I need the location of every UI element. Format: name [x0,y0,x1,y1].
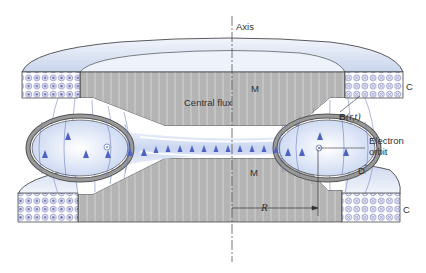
bottom-left-coil [18,193,78,222]
donut-label: D [358,166,365,176]
top-left-coil [22,72,80,98]
field-label: B(r,t) [339,112,361,122]
axis-label: Axis [236,22,254,32]
electron-orbit-label-line2: orbit [369,147,387,157]
betatron-diagram: Axis M Central flux B(r,t) Electron orbi… [0,0,426,273]
coil-label-bottom: C [403,205,410,215]
radius-label: R [261,202,268,213]
magnet-label-top: M [251,84,259,94]
magnet-label-bottom: M [250,168,258,178]
coil-label-top: C [406,82,413,92]
electron-orbit-label-line1: Electron [369,136,404,146]
central-flux-label: Central flux [184,98,232,108]
top-right-coil [345,72,403,98]
bottom-right-coil [342,193,400,222]
donut-chamber-left [28,116,132,180]
